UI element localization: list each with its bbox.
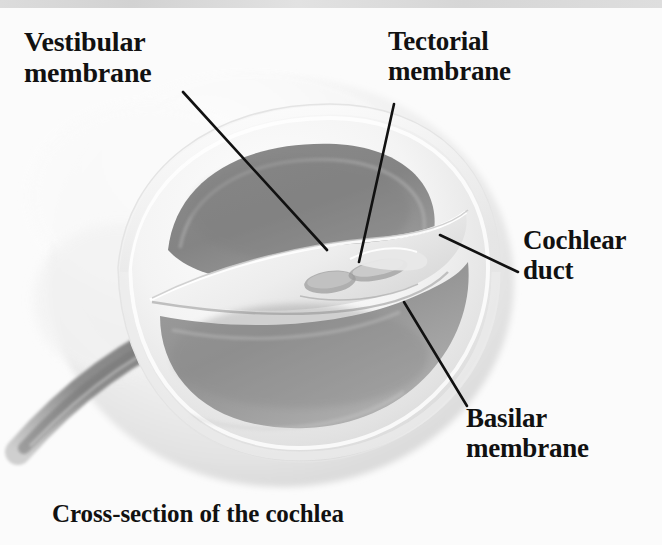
label-cochlear-duct: Cochlear duct: [523, 225, 626, 285]
scala-tympani-chamber: [160, 262, 469, 429]
cochlear-duct-leader: [440, 235, 518, 272]
vestibular-membrane-edge: [152, 210, 468, 298]
vestibular-membrane-leader: [183, 92, 327, 250]
basilar-membrane-leader: [404, 302, 467, 406]
figure-canvas: Vestibular membrane Tectorial membrane C…: [0, 0, 662, 545]
cochlea-outer-shell: [30, 72, 514, 487]
leader-lines: [183, 92, 518, 406]
cochlear-turn-body: [118, 104, 500, 462]
spiral-continuation-band: [18, 297, 356, 452]
figure-caption: Cross-section of the cochlea: [52, 500, 344, 528]
scala-vestibuli-chamber: [168, 144, 435, 287]
label-tectorial-membrane: Tectorial membrane: [388, 26, 511, 86]
shell-rim-highlight: [124, 110, 496, 456]
label-vestibular-membrane: Vestibular membrane: [24, 26, 151, 89]
label-basilar-membrane: Basilar membrane: [466, 403, 589, 463]
basilar-membrane-edge: [152, 272, 448, 314]
tectorial-membrane-leader: [359, 104, 394, 262]
cochlear-duct-wedge: [150, 210, 468, 314]
organ-of-corti: [300, 248, 427, 300]
